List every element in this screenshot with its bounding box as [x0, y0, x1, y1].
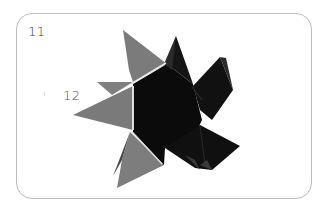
origami-model-illustration — [0, 0, 325, 208]
gray-flap-left — [73, 86, 133, 130]
